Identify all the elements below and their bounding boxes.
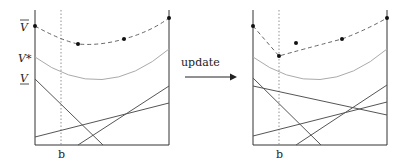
right-point <box>251 24 255 28</box>
right-point <box>340 37 344 41</box>
right-panel: b <box>251 10 389 161</box>
label-b-left: b <box>58 148 65 161</box>
label-v-under: V <box>20 72 29 85</box>
right-point <box>294 41 298 45</box>
label-v-star: V* <box>18 52 32 65</box>
label-v-bar: V <box>20 21 29 34</box>
right-line-3 <box>296 85 387 145</box>
right-line-new <box>253 86 387 115</box>
right-point <box>385 16 389 20</box>
left-line-2 <box>35 103 169 137</box>
right-point <box>277 54 281 58</box>
right-vstar-curve <box>253 49 387 80</box>
left-panel: V V* V b <box>18 10 171 161</box>
diagram-canvas: V V* V b update b <box>0 0 409 164</box>
left-vstar-curve <box>35 49 169 80</box>
arrow-label: update <box>181 56 220 69</box>
update-arrow: update <box>181 56 237 81</box>
left-point <box>33 24 37 28</box>
right-upper-bound <box>253 18 387 56</box>
left-point <box>76 42 80 46</box>
left-point <box>122 37 126 41</box>
label-b-right: b <box>276 148 283 161</box>
arrow-head-icon <box>230 74 237 81</box>
left-upper-bound <box>35 18 169 44</box>
left-line-3 <box>78 86 169 145</box>
left-point <box>167 16 171 20</box>
right-line-2 <box>253 102 387 136</box>
